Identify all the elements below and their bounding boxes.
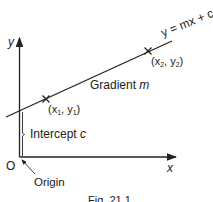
- point-1-label: (x1, y1): [48, 103, 80, 116]
- point-1-cross-icon: [43, 96, 50, 103]
- x-axis-label: x: [166, 161, 174, 175]
- intercept-label: Intercept c: [30, 127, 86, 141]
- equation-label: y = mx + c: [159, 6, 213, 40]
- line-graph-diagram: y x O Origin y = mx + c Gradient m (x1, …: [0, 0, 213, 202]
- origin-pointer-arrow: [22, 160, 35, 174]
- intercept-brace: [23, 112, 25, 156]
- origin-annotation: Origin: [34, 176, 65, 188]
- gradient-label: Gradient m: [90, 78, 149, 92]
- point-2-label: (x2, y2): [151, 55, 183, 68]
- origin-symbol: O: [6, 159, 15, 173]
- y-axis-label: y: [7, 35, 15, 49]
- figure-caption: Fig. 21.1: [88, 194, 131, 202]
